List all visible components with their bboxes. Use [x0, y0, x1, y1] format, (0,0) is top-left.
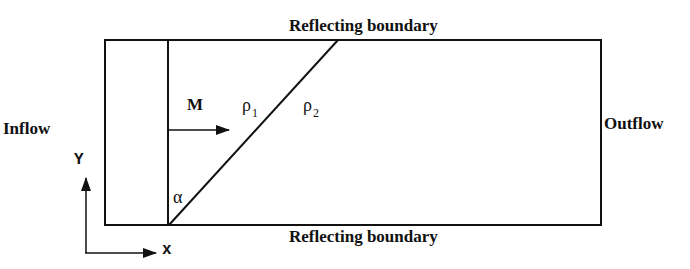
x-axis-label: x	[162, 242, 172, 258]
region1-subscript: 1	[252, 106, 258, 120]
region1-symbol: ρ	[242, 95, 251, 115]
outflow-label: Outflow	[604, 115, 664, 132]
bottom-boundary-label: Reflecting boundary	[289, 228, 438, 245]
region2-density-label: ρ2	[303, 96, 319, 119]
angle-alpha-label: α	[173, 188, 182, 206]
region2-subscript: 2	[313, 106, 319, 120]
region1-density-label: ρ1	[242, 96, 258, 119]
mach-label: M	[187, 96, 203, 113]
interface-line	[169, 40, 338, 225]
top-boundary-label: Reflecting boundary	[289, 17, 438, 34]
y-axis-label: Y	[74, 152, 84, 168]
inflow-label: Inflow	[3, 120, 50, 137]
region2-symbol: ρ	[303, 95, 312, 115]
